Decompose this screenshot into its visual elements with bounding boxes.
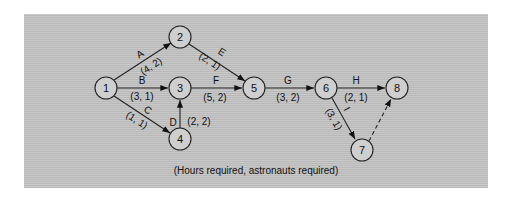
svg-text:D: D xyxy=(169,117,176,128)
svg-text:E: E xyxy=(216,46,228,59)
node-1: 1 xyxy=(95,77,117,99)
svg-text:H: H xyxy=(352,75,359,86)
svg-text:(3, 2): (3, 2) xyxy=(276,92,299,103)
svg-text:8: 8 xyxy=(394,82,400,94)
svg-text:A: A xyxy=(134,47,146,60)
svg-text:7: 7 xyxy=(359,144,365,156)
edge-c: C (1, 1) xyxy=(114,96,170,133)
node-3: 3 xyxy=(169,77,191,99)
node-2: 2 xyxy=(169,26,191,48)
svg-text:(5, 2): (5, 2) xyxy=(203,92,226,103)
svg-text:C: C xyxy=(142,103,154,116)
svg-text:4: 4 xyxy=(177,133,183,145)
edge-d: D (2, 2) xyxy=(169,100,210,128)
node-4: 4 xyxy=(169,128,191,150)
diagram-caption: (Hours required, astronauts required) xyxy=(174,165,339,176)
svg-text:(3, 1): (3, 1) xyxy=(130,91,153,102)
edge-h: H (2, 1) xyxy=(337,75,385,103)
edge-f: F (5, 2) xyxy=(191,75,242,103)
edge-g: G (3, 2) xyxy=(265,75,314,103)
edge-b: B (3, 1) xyxy=(117,75,168,102)
network-diagram: A (4, 2) B (3, 1) C (1, 1) D (2, 2) E (2… xyxy=(0,0,512,203)
svg-text:(2, 2): (2, 2) xyxy=(187,116,210,127)
svg-text:B: B xyxy=(139,75,146,86)
svg-text:3: 3 xyxy=(177,82,183,94)
svg-text:G: G xyxy=(284,75,292,86)
svg-text:F: F xyxy=(213,75,219,86)
edge-i: I (3, 1) xyxy=(323,98,355,139)
svg-text:(2, 1): (2, 1) xyxy=(344,92,367,103)
node-6: 6 xyxy=(315,77,337,99)
node-7: 7 xyxy=(351,139,373,161)
edge-dummy xyxy=(369,99,391,141)
svg-text:6: 6 xyxy=(323,82,329,94)
node-5: 5 xyxy=(243,77,265,99)
svg-text:I: I xyxy=(342,105,353,113)
svg-text:5: 5 xyxy=(251,82,257,94)
svg-text:2: 2 xyxy=(177,31,183,43)
svg-text:1: 1 xyxy=(103,82,109,94)
node-8: 8 xyxy=(386,77,408,99)
